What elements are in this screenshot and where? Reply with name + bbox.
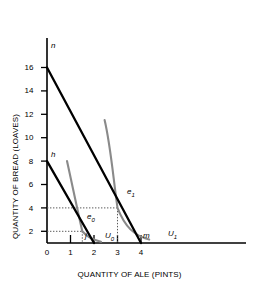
y-tick-4: 4 xyxy=(23,204,39,213)
y-tick-6: 6 xyxy=(23,180,39,189)
y-tick-10: 10 xyxy=(21,133,37,142)
label-point-m: m xyxy=(143,231,150,240)
label-curve-u1: U1 xyxy=(168,229,177,240)
x-tick-3: 3 xyxy=(110,248,126,257)
label-e0-sub: 0 xyxy=(91,217,94,223)
y-tick-8: 8 xyxy=(23,157,39,166)
y-tick-14: 14 xyxy=(21,86,37,95)
consumer-choice-chart: 2 4 6 8 10 12 14 16 0 1 2 3 4 n h e0 e1 … xyxy=(0,0,259,289)
label-u1-sub: 1 xyxy=(174,234,177,240)
x-tick-0: 0 xyxy=(39,248,55,257)
label-e1-sub: 1 xyxy=(131,192,134,198)
x-axis-title: QUANTITY OF ALE (PINTS) xyxy=(0,270,259,279)
y-tick-16: 16 xyxy=(21,63,37,72)
x-tick-2: 2 xyxy=(86,248,102,257)
x-tick-4: 4 xyxy=(133,248,149,257)
chart-plot-area xyxy=(0,0,259,289)
label-curve-u0: U0 xyxy=(105,231,114,242)
label-point-e0: e0 xyxy=(87,212,95,223)
indifference-curve-u1 xyxy=(105,120,150,240)
label-point-n: n xyxy=(51,41,55,50)
label-point-h: h xyxy=(51,150,55,159)
y-axis-ticks xyxy=(41,68,47,232)
label-point-e1: e1 xyxy=(127,187,135,198)
x-tick-1: 1 xyxy=(63,248,79,257)
label-point-j: j xyxy=(85,231,87,240)
indifference-curve-u0 xyxy=(67,161,101,242)
label-u0-sub: 0 xyxy=(111,236,114,242)
y-tick-2: 2 xyxy=(23,227,39,236)
y-axis-title: QUANTITY OF BREAD (LOAVES) xyxy=(11,114,20,239)
y-tick-12: 12 xyxy=(21,110,37,119)
